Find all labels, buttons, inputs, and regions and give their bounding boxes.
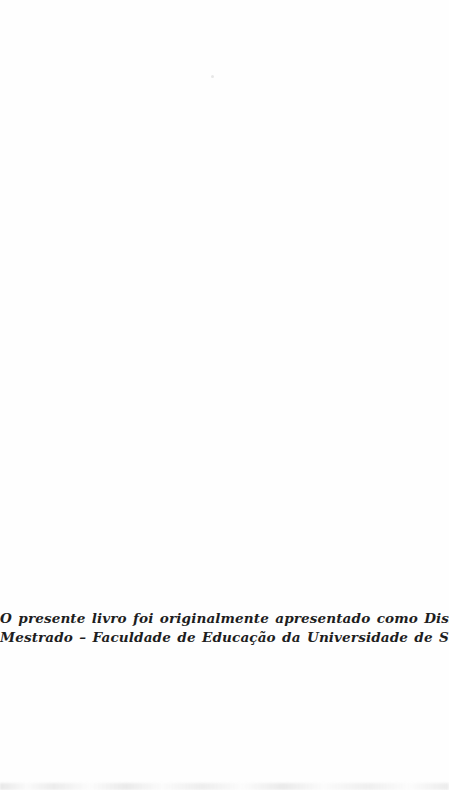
imprint-note: O presente livro foi originalmente apres… (0, 609, 449, 647)
scan-speck (211, 75, 214, 78)
imprint-note-line-2: Mestrado – Faculdade de Educação da Univ… (0, 628, 449, 647)
page-edge-shadow (0, 783, 449, 790)
book-page: O presente livro foi originalmente apres… (0, 0, 449, 790)
imprint-note-line-1: O presente livro foi originalmente apres… (0, 609, 449, 628)
